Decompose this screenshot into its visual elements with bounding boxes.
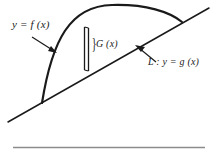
curve-label: y = f (x) [12, 19, 50, 30]
strip-G [85, 27, 89, 71]
curve-f [42, 5, 182, 103]
leader-arrow-curve [32, 37, 57, 53]
strip-label: G (x) [96, 39, 118, 49]
line-label: L : y = g (x) [148, 57, 199, 67]
math-figure: y = f (x) } G (x) L : y = g (x) [0, 0, 218, 154]
